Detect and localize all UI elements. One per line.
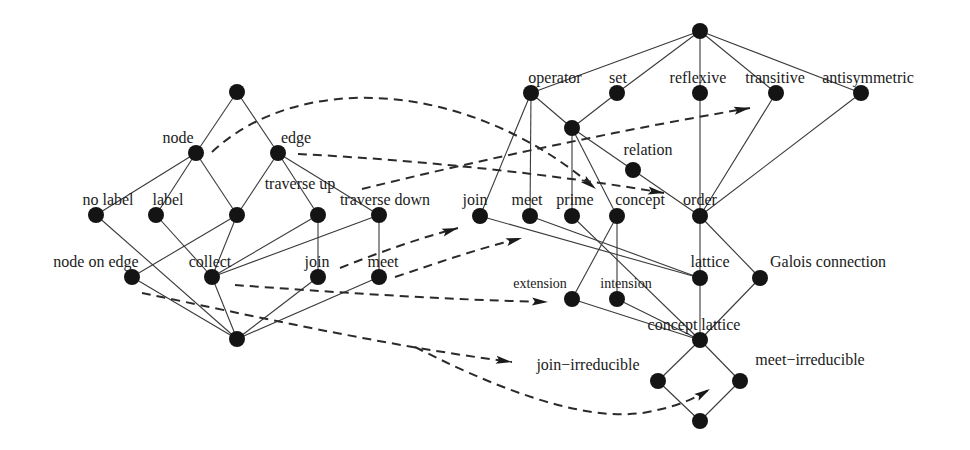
right-node-relation[interactable] [625, 162, 641, 178]
left-label-traverse-up: traverse up [265, 175, 336, 193]
right-label-reflexive: reflexive [670, 69, 727, 86]
right-node-r-opset[interactable] [564, 120, 580, 136]
right-node-concept-lattice[interactable] [692, 332, 708, 348]
left-node-no-label[interactable] [88, 207, 104, 223]
left-node-traverse-up[interactable] [310, 207, 326, 223]
left-lattice-edge [237, 92, 278, 153]
right-node-prime[interactable] [564, 208, 580, 224]
arrowhead-icon [581, 176, 599, 192]
mapping-arrow-node-on-edge-to-join-irreducible [142, 293, 512, 362]
left-node-traverse-down[interactable] [371, 207, 387, 223]
left-node-collect[interactable] [204, 269, 220, 285]
left-node-l-bottom[interactable] [229, 331, 245, 347]
right-label-set: set [609, 69, 627, 86]
left-label-node: node [162, 129, 193, 146]
lattice-mapping-diagram: nodeedgeno labellabeltraverse uptraverse… [0, 0, 970, 450]
right-node-galois-connection[interactable] [752, 270, 768, 286]
left-node-join[interactable] [310, 269, 326, 285]
right-label-extension: extension [513, 276, 567, 291]
left-node-meet[interactable] [371, 269, 387, 285]
left-node-l-mid[interactable] [229, 207, 245, 223]
left-lattice-edge [212, 215, 379, 277]
arrowhead-icon [694, 386, 712, 401]
left-label-traverse-down: traverse down [340, 191, 430, 208]
left-label-meet: meet [367, 253, 399, 270]
left-node-l-top[interactable] [229, 84, 245, 100]
right-label-operator: operator [528, 69, 582, 87]
left-lattice-edge [196, 153, 237, 215]
right-node-transitive[interactable] [768, 85, 784, 101]
left-node-label[interactable] [148, 207, 164, 223]
right-lattice-edge [572, 93, 617, 128]
right-label-relation: relation [624, 141, 673, 158]
right-label-meet: meet [511, 191, 543, 208]
right-label-concept: concept [615, 191, 665, 209]
right-label-lattice: lattice [690, 253, 729, 270]
right-label-transitive: transitive [745, 69, 805, 86]
right-node-operator[interactable] [523, 85, 539, 101]
right-lattice-edge [531, 93, 572, 128]
right-lattice-edge [480, 216, 700, 278]
right-node-set[interactable] [609, 85, 625, 101]
right-node-join-irreducible[interactable] [650, 373, 666, 389]
right-node-lattice[interactable] [692, 270, 708, 286]
left-label-label: label [152, 191, 184, 208]
left-label-edge: edge [281, 129, 311, 147]
left-lattice-edge [237, 277, 318, 339]
right-lattice-edge [700, 340, 740, 381]
right-node-extension[interactable] [564, 291, 580, 307]
right-label-order: order [683, 191, 717, 208]
mapping-arrow-collect-to-extension [235, 285, 548, 302]
left-lattice-edge [132, 277, 237, 339]
left-node-node-on-edge[interactable] [124, 269, 140, 285]
right-label-join-irreducible: join−irreducible [535, 356, 639, 374]
right-lattice-edge [658, 381, 700, 421]
right-lattice-edge [700, 93, 861, 216]
left-lattice-edge [196, 92, 237, 153]
right-lattice-edge [658, 340, 700, 381]
right-node-r-top[interactable] [692, 23, 708, 39]
right-label-antisymmetric: antisymmetric [822, 69, 914, 87]
arrowhead-icon [532, 297, 548, 306]
mapping-arrow-edge-to-order [298, 154, 664, 193]
right-label-intension: intension [600, 276, 651, 291]
right-node-reflexive[interactable] [692, 85, 708, 101]
diagram-canvas: nodeedgeno labellabeltraverse uptraverse… [0, 0, 970, 450]
right-node-r-bottom[interactable] [692, 413, 708, 429]
arrowhead-icon [506, 234, 524, 246]
left-label-no-label: no label [82, 191, 134, 208]
arrowhead-icon [442, 224, 460, 236]
lattice-edges [96, 31, 861, 421]
left-node-node[interactable] [188, 145, 204, 161]
right-node-meet[interactable] [522, 208, 538, 224]
right-node-concept[interactable] [609, 208, 625, 224]
right-label-meet-irreducible: meet−irreducible [755, 351, 864, 368]
right-label-concept-lattice: concept lattice [648, 316, 741, 334]
right-label-join: join [462, 191, 488, 209]
right-node-order[interactable] [692, 208, 708, 224]
right-label-prime: prime [556, 191, 593, 209]
right-node-meet-irreducible[interactable] [732, 373, 748, 389]
left-label-collect: collect [189, 253, 232, 270]
right-label-galois-connection: Galois connection [770, 253, 886, 270]
mapping-arrow-meet-to-meet [395, 238, 522, 277]
right-lattice-edge [700, 381, 740, 421]
right-node-join[interactable] [472, 208, 488, 224]
right-lattice-edge [530, 216, 700, 278]
left-label-node-on-edge: node on edge [53, 253, 138, 271]
right-node-antisymmetric[interactable] [853, 85, 869, 101]
right-node-intension[interactable] [609, 291, 625, 307]
left-label-join: join [304, 253, 330, 271]
left-node-edge[interactable] [270, 145, 286, 161]
